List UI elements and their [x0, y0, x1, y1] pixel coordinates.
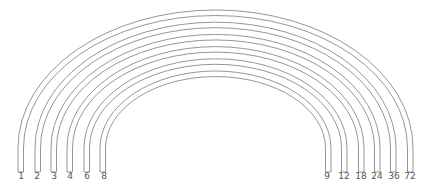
- factor-rainbow-diagram: [0, 0, 425, 186]
- arch-4-18: [67, 47, 364, 172]
- arch-8-9: [100, 71, 331, 172]
- left-label-2: 2: [34, 171, 40, 182]
- right-label-24: 24: [371, 171, 382, 182]
- right-label-18: 18: [355, 171, 366, 182]
- left-label-6: 6: [84, 171, 90, 182]
- right-label-36: 36: [388, 171, 399, 182]
- right-label-9: 9: [324, 171, 330, 182]
- left-label-8: 8: [101, 171, 107, 182]
- left-label-4: 4: [67, 171, 73, 182]
- left-label-3: 3: [51, 171, 57, 182]
- left-label-1: 1: [18, 171, 24, 182]
- arch-6-12: [84, 59, 347, 172]
- right-label-12: 12: [338, 171, 349, 182]
- right-label-72: 72: [404, 171, 415, 182]
